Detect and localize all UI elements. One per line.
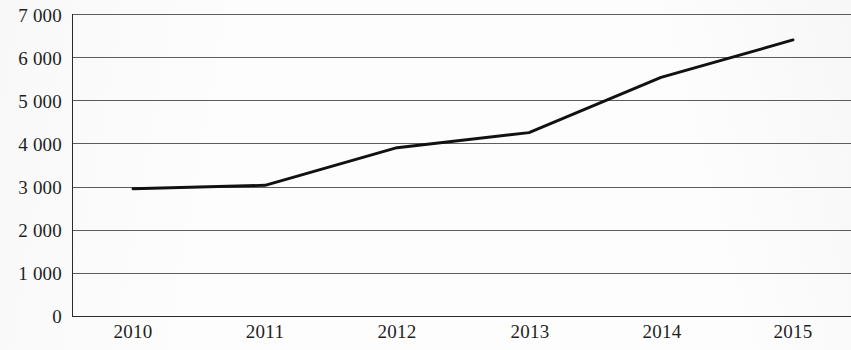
gridlines: [72, 15, 851, 274]
x-axis-tick-label: 2013: [485, 322, 575, 342]
x-axis-tick-label: 2014: [617, 322, 707, 342]
line-chart: 7 000 6 000 5 000 4 000 3 000 2 000 1 00…: [0, 0, 851, 350]
data-series-line: [133, 40, 793, 189]
x-axis-tick-label: 2011: [220, 322, 310, 342]
x-axis-tick-label: 2010: [88, 322, 178, 342]
x-axis-tick-label: 2015: [748, 322, 838, 342]
x-axis-tick-label: 2012: [352, 322, 442, 342]
plot-area: [0, 0, 851, 350]
